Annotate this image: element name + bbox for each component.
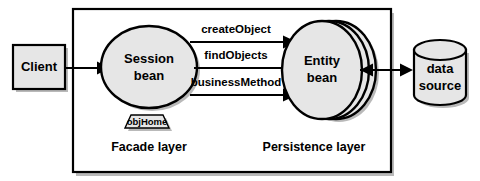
data-source-label-line2: source — [419, 78, 462, 93]
business-method-label: businessMethod — [191, 76, 282, 88]
entity-bean-label-line1: Entity — [304, 53, 341, 68]
session-bean-label-line1: Session — [124, 51, 174, 66]
session-bean-ellipse — [101, 26, 197, 108]
client-node[interactable]: Client — [13, 45, 68, 92]
create-object-label: createObject — [201, 23, 271, 35]
obj-home-label: objHome — [127, 116, 168, 127]
data-source-label-line1: data — [427, 61, 455, 76]
diagram-canvas: Client Session bean objHome createObject — [0, 0, 480, 181]
client-label: Client — [21, 59, 58, 74]
entity-datasource-right-arrowhead-icon — [400, 64, 413, 77]
persistence-layer-label: Persistence layer — [263, 140, 366, 154]
facade-layer-label: Facade layer — [111, 140, 187, 154]
architecture-diagram: Client Session bean objHome createObject — [0, 0, 480, 181]
obj-home-node[interactable]: objHome — [125, 115, 172, 131]
entity-bean-label-line2: bean — [307, 70, 337, 85]
data-source-cylinder-top — [414, 40, 466, 60]
find-objects-label: findObjects — [204, 49, 267, 61]
session-bean-label-line2: bean — [134, 68, 164, 83]
data-source-node[interactable]: data source — [414, 40, 469, 108]
